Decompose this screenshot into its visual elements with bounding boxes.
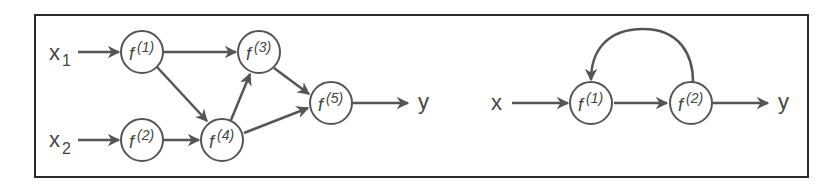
input-x1-label: x 1 (49, 40, 71, 69)
input-x-label-text: x (491, 90, 502, 115)
svg-text:(1): (1) (137, 39, 154, 55)
edge-f4-f5 (244, 108, 308, 133)
input-x2-label: x 2 (49, 127, 71, 157)
edge-f3-f5 (274, 68, 309, 94)
edge-f4-f3 (231, 74, 250, 120)
svg-text:(4): (4) (217, 127, 234, 143)
node-rnn-f1: f (1) (570, 82, 612, 124)
recurrent-graph: x f (1) f (2) y (491, 29, 789, 124)
node-f5: f (5) (310, 82, 352, 124)
svg-text:(1): (1) (586, 90, 603, 106)
output-y-label-rnn: y (778, 89, 789, 114)
output-y-label: y (418, 89, 429, 114)
node-f3: f (3) (238, 31, 280, 73)
svg-text:(3): (3) (254, 39, 271, 55)
svg-text:2: 2 (62, 140, 71, 157)
svg-text:x: x (49, 127, 60, 152)
node-f2: f (2) (121, 119, 163, 161)
svg-text:(2): (2) (137, 127, 154, 143)
edge-f1-f4 (157, 67, 207, 121)
feedforward-graph: x 1 x 2 f (1) f (2) f (3) (49, 31, 429, 161)
svg-text:1: 1 (62, 52, 71, 69)
svg-text:x: x (49, 40, 60, 65)
svg-text:(2): (2) (686, 90, 703, 106)
node-f1: f (1) (121, 31, 163, 73)
computational-graph-diagram: x 1 x 2 f (1) f (2) f (3) (0, 0, 840, 185)
node-rnn-f2: f (2) (670, 82, 712, 124)
node-f4: f (4) (201, 119, 243, 161)
svg-text:(5): (5) (326, 90, 343, 106)
edge-feedback-loop-f2-f1 (591, 29, 693, 82)
